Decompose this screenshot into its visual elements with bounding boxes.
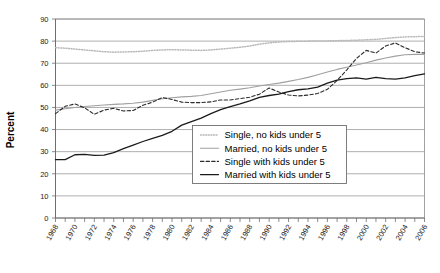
series-line-0 [56, 36, 425, 52]
x-tick-label: 1984 [199, 223, 215, 242]
x-tick-label: 2006 [413, 223, 429, 242]
x-tick-label: 1978 [141, 223, 157, 242]
y-axis-title: Percent [5, 111, 16, 148]
x-tick-label: 2000 [355, 223, 371, 242]
x-tick-label: 1986 [219, 223, 235, 242]
x-tick-label: 1968 [44, 223, 60, 242]
x-tick-label: 1976 [122, 223, 138, 242]
y-tick-label: 90 [40, 15, 48, 24]
x-tick-label: 1996 [316, 223, 332, 242]
x-tick-label: 1970 [64, 223, 80, 242]
x-tick-label: 1990 [258, 223, 274, 242]
x-tick-labels: 1968197019721974197619781980198219841986… [44, 218, 429, 242]
x-tick-label: 1982 [180, 223, 196, 242]
legend-label-1: Married, no kids under 5 [225, 143, 327, 154]
legend-label-3: Married with kids under 5 [225, 169, 331, 180]
labor-force-participation-chart: Percent 0102030405060708090 196819701972… [0, 0, 440, 273]
y-tick-label: 60 [40, 81, 48, 90]
legend-label-2: Single with kids under 5 [225, 156, 325, 167]
y-tick-label: 10 [40, 192, 48, 201]
x-tick-label: 1972 [83, 223, 99, 242]
plot-frame [56, 19, 425, 218]
x-tick-label: 1998 [335, 223, 351, 242]
x-tick-label: 1992 [277, 223, 293, 242]
y-tick-label: 50 [40, 103, 48, 112]
y-tick-label: 70 [40, 59, 48, 68]
legend-label-0: Single, no kids under 5 [225, 129, 322, 140]
x-tick-label: 2002 [374, 223, 390, 242]
series-line-1 [56, 54, 425, 110]
gridlines [56, 19, 425, 218]
x-tick-label: 1974 [102, 223, 118, 242]
x-tick-label: 1994 [297, 223, 313, 242]
x-tick-label: 1988 [238, 223, 254, 242]
y-tick-label: 80 [40, 37, 48, 46]
x-tick-label: 1980 [161, 223, 177, 242]
y-tick-labels: 0102030405060708090 [40, 15, 55, 223]
chart-canvas: Percent 0102030405060708090 196819701972… [0, 0, 440, 273]
y-tick-label: 40 [40, 125, 48, 134]
x-tick-label: 2004 [394, 223, 410, 242]
y-tick-label: 20 [40, 170, 48, 179]
y-tick-label: 30 [40, 147, 48, 156]
y-axis-label: Percent [5, 111, 16, 148]
chart-legend: Single, no kids under 5Married, no kids … [193, 126, 347, 184]
y-tick-label: 0 [44, 214, 48, 223]
